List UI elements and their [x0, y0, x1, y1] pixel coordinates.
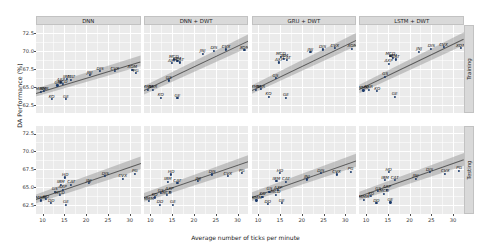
y-tick-label: 65.0	[22, 84, 34, 90]
data-point-label: DIS	[209, 169, 216, 174]
data-point-label: DIS	[102, 170, 109, 175]
gridline-x	[258, 126, 259, 214]
data-point-label: NSR	[256, 83, 265, 88]
data-point-label: NSR	[364, 84, 373, 89]
data-point-label: GS	[166, 74, 172, 79]
data-point	[65, 98, 67, 100]
data-point-label: JNJ	[87, 69, 93, 74]
gridline-x	[453, 126, 454, 214]
data-point	[152, 89, 154, 91]
data-point	[176, 97, 178, 99]
gridline-y-minor	[144, 78, 249, 79]
gridline-x-minor	[183, 126, 184, 214]
data-point-label: CAT	[176, 56, 184, 61]
gridline-y-minor	[144, 142, 249, 143]
y-tick-label: 67.5	[22, 166, 34, 172]
gridline-x	[258, 25, 259, 113]
data-point-label: DIS	[97, 65, 104, 70]
data-point-label: DIS	[317, 167, 324, 172]
data-point-label: GS	[273, 72, 279, 77]
gridline-y	[36, 205, 141, 206]
x-tick-label: 30	[126, 217, 133, 223]
facet-strip-row-label: Testing	[466, 160, 472, 179]
data-point-label: JNJ	[195, 175, 201, 180]
gridline-y	[252, 33, 357, 34]
data-point-label: GE	[63, 199, 69, 204]
data-point	[349, 170, 351, 172]
data-point-label: CAT	[392, 54, 400, 59]
data-point-label: DIS	[210, 45, 217, 50]
data-point-label: JNJ	[86, 177, 92, 182]
data-point-label: GE	[279, 197, 285, 202]
gridline-y-minor	[359, 96, 464, 97]
gridline-y	[252, 133, 357, 134]
data-point-label: CVX	[222, 44, 231, 49]
data-point	[394, 96, 396, 98]
data-point-label: CAT	[282, 176, 290, 181]
data-point	[135, 72, 137, 74]
gridline-y-minor	[252, 142, 357, 143]
gridline-y	[36, 51, 141, 52]
x-tick-label: 20	[298, 217, 305, 223]
data-point	[351, 48, 353, 50]
facet-strip-row-label: Training	[466, 59, 472, 80]
data-point	[227, 175, 229, 177]
gridline-x	[64, 25, 65, 113]
gridline-y	[144, 151, 249, 152]
data-point-label: XOM	[240, 44, 249, 49]
x-tick-label: 25	[105, 217, 112, 223]
data-point	[367, 89, 369, 91]
data-point-label: MCD	[379, 188, 389, 193]
data-point	[286, 59, 288, 61]
data-point-label: DIS	[319, 44, 326, 49]
x-tick-label: 15	[61, 217, 68, 223]
gridline-y	[144, 33, 249, 34]
data-point-label: HD	[168, 169, 174, 174]
gridline-y	[252, 87, 357, 88]
panel-gru-dwt-training: MMMNSRKOGEGSAXPMCDIBMCATJNJDISCVXXOM	[252, 25, 357, 113]
data-point-label: CVX	[118, 173, 127, 178]
gridline-y	[36, 33, 141, 34]
gridline-y	[359, 151, 464, 152]
y-tick-label: 70.0	[22, 48, 34, 54]
x-tick-label: 15	[169, 217, 176, 223]
data-point	[167, 181, 169, 183]
data-point-label: NSR	[40, 85, 49, 90]
data-point-label: CVX	[111, 65, 120, 70]
gridline-x-minor	[334, 25, 335, 113]
gridline-y-minor	[36, 42, 141, 43]
data-point-label: HD	[385, 166, 391, 171]
data-point-label: JNJ	[413, 173, 419, 178]
data-point-label: HD	[277, 167, 283, 172]
data-point-label: PG	[348, 166, 354, 171]
data-point-label: DD	[48, 197, 54, 202]
data-point	[261, 196, 263, 198]
gridline-x-minor	[161, 25, 162, 113]
data-point-label: GE	[174, 92, 180, 97]
y-tick-label: 62.5	[22, 202, 34, 208]
gridline-x-minor	[269, 25, 270, 113]
gridline-x	[172, 25, 173, 113]
data-point-label: DD	[157, 199, 163, 204]
panel-dnn-dwt-training: MMMNSRKOGEGSAXPMCDIBMCATJNJDISCVXXOM	[144, 25, 249, 113]
data-point	[383, 193, 385, 195]
data-point-label: PG	[132, 168, 138, 173]
data-point-label: CVX	[332, 169, 341, 174]
x-tick-label: 15	[384, 217, 391, 223]
y-tick-label: 70.0	[22, 148, 34, 154]
x-tick-label: 10	[39, 217, 46, 223]
data-point	[134, 173, 136, 175]
panel-dnn-training: MMMNSRKOGEGSAXPMCDIBMCATJNJDISCVXXOMPG	[36, 25, 141, 113]
data-point	[444, 173, 446, 175]
gridline-x	[194, 126, 195, 214]
data-point-label: DIS	[428, 43, 435, 48]
x-tick-label: 25	[212, 217, 219, 223]
gridline-x-minor	[420, 25, 421, 113]
data-point-label: CAT	[173, 177, 181, 182]
gridline-x-minor	[205, 25, 206, 113]
gridline-y	[359, 33, 464, 34]
gridline-y-minor	[252, 196, 357, 197]
chart-root: DA Performance (%) Average number of tic…	[0, 0, 491, 250]
gridline-x-minor	[97, 126, 98, 214]
data-point	[376, 90, 378, 92]
